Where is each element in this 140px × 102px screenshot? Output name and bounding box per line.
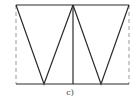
left-inverted-triangle [16, 5, 73, 84]
right-inverted-triangle [73, 5, 129, 84]
figure-caption: c) [0, 88, 140, 98]
geometric-diagram [0, 0, 140, 102]
